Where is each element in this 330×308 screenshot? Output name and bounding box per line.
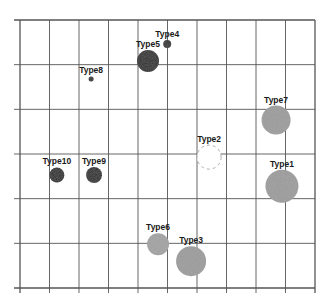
bubble-type4 [163, 40, 171, 48]
bubble-type9 [86, 167, 102, 183]
bubble-type5 [137, 50, 159, 72]
bubble-label: Type9 [82, 156, 106, 166]
bubble-label: Type8 [79, 65, 103, 75]
bubble-type1 [265, 170, 298, 203]
bubble-labels: Type4Type5Type8Type7Type2Type10Type9Type… [43, 29, 295, 245]
bubble-chart: Type4Type5Type8Type7Type2Type10Type9Type… [0, 0, 330, 308]
bubble-type3 [176, 246, 206, 276]
bubble-label: Type6 [146, 222, 170, 232]
bubble-label: Type3 [179, 235, 203, 245]
bubble-type10 [49, 167, 64, 182]
bubble-type2 [197, 145, 221, 169]
bubble-label: Type5 [136, 39, 160, 49]
bubble-type7 [262, 106, 291, 135]
bubble-type6 [147, 233, 169, 255]
bubble-label: Type1 [270, 159, 294, 169]
bubble-label: Type2 [197, 134, 221, 144]
bubble-label: Type10 [43, 156, 72, 166]
bubble-label: Type4 [155, 29, 179, 39]
bubble-type8 [89, 76, 94, 81]
bubble-label: Type7 [264, 95, 288, 105]
